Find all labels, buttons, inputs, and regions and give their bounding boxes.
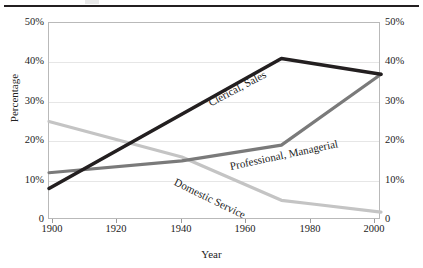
x-axis-tick-1980: 1980 [287, 224, 333, 235]
y-axis-left-tick-20: 20% [4, 135, 44, 146]
x-axis-tick-1960: 1960 [222, 224, 268, 235]
x-axis-tick-1900: 1900 [29, 224, 75, 235]
y-axis-left-tick-30: 30% [4, 96, 44, 107]
y-axis-right-tick-50: 50% [385, 17, 423, 28]
caption-descender-artifact [85, 0, 99, 4]
series-lines [49, 23, 381, 220]
figure-top-rule [4, 5, 419, 7]
y-axis-left-tick-10: 10% [4, 175, 44, 186]
y-axis-right-tick-40: 40% [385, 56, 423, 67]
y-axis-right-tick-20: 20% [385, 135, 423, 146]
y-axis-right-tick-10: 10% [385, 175, 423, 186]
x-axis-tick-2000: 2000 [351, 224, 397, 235]
y-axis-left-tick-40: 40% [4, 56, 44, 67]
line-professional-managerial [49, 74, 381, 173]
plot-area [48, 22, 380, 219]
y-axis-right-tick-0: 0 [385, 214, 423, 225]
y-axis-left-tick-50: 50% [4, 17, 44, 28]
y-axis-right-tick-30: 30% [385, 96, 423, 107]
y-axis-left-tick-0: 0 [4, 214, 44, 225]
x-axis-tick-1920: 1920 [93, 224, 139, 235]
x-axis-tick-1940: 1940 [158, 224, 204, 235]
x-axis-title: Year [0, 248, 423, 260]
figure-container: Percentage Year 50% 40% 30% 20% 10% 0 50… [0, 0, 423, 268]
